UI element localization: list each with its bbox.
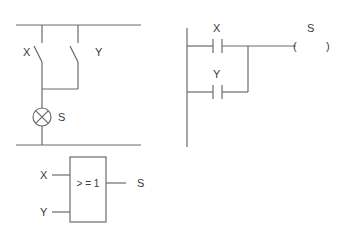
input-x-label: X [40, 169, 48, 181]
output-s-label: S [137, 177, 144, 189]
ladder-diagram: X Y ( ) S [187, 22, 330, 147]
switch-y [70, 25, 78, 89]
circuit-diagram: X Y S [16, 25, 141, 145]
coil-s-label: S [307, 22, 314, 34]
lamp-label: S [58, 111, 65, 123]
switch-y-label: Y [95, 46, 103, 58]
or-gate-function-label: > = 1 [77, 178, 100, 189]
contact-y-label: Y [213, 68, 221, 80]
contact-x-label: X [213, 22, 221, 34]
contact-x-icon [213, 39, 222, 53]
contact-y-icon [213, 85, 222, 99]
or-gate-box [70, 157, 106, 222]
coil-close-paren: ) [326, 40, 330, 52]
or-logic-diagram: X Y S X [0, 0, 347, 230]
lamp-icon [33, 108, 51, 126]
coil-s-icon: ( ) [293, 40, 330, 52]
switch-x-blade [34, 46, 42, 62]
switch-x-label: X [23, 46, 31, 58]
logic-gate-diagram: > = 1 X Y S [40, 157, 144, 222]
input-y-label: Y [40, 206, 48, 218]
switch-y-blade [70, 46, 78, 62]
switch-x [34, 25, 42, 89]
coil-open-paren: ( [293, 40, 297, 52]
